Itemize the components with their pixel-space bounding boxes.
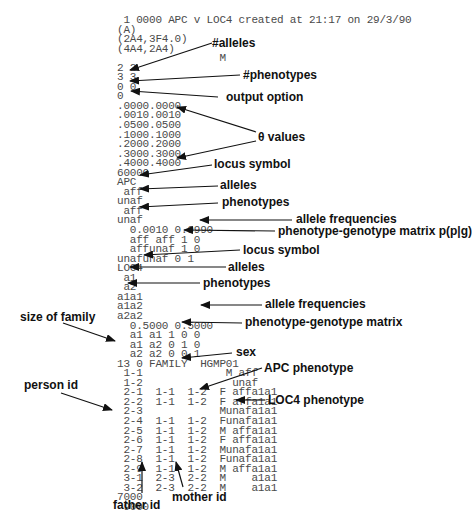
arrow-locus-symbol-2 (144, 250, 240, 255)
arrow-apc-phenotype (200, 368, 262, 389)
arrow-alleles-1 (140, 186, 218, 189)
label-alleles-count: #alleles (212, 36, 255, 50)
label-phenotypes-2: phenotypes (203, 276, 270, 290)
label-allele-frequencies-2: allele frequencies (265, 297, 366, 311)
label-mother-id: mother id (172, 490, 227, 504)
arrow-pg-matrix-2 (182, 322, 242, 323)
arrow-sex (182, 353, 232, 358)
label-sex: sex (236, 345, 256, 359)
label-size-of-family: size of family (20, 310, 95, 324)
arrow-alleles-count (130, 43, 212, 70)
label-output-option: output option (226, 90, 303, 104)
label-alleles-2: alleles (228, 260, 265, 274)
arrow-phenotypes-1 (140, 203, 218, 207)
label-loc4-phenotype: LOC4 phenotype (268, 393, 364, 407)
arrow-phenotypes-count (130, 75, 240, 81)
arrow-output-option (131, 91, 218, 97)
label-person-id: person id (24, 378, 78, 392)
label-apc-phenotype: APC phenotype (264, 361, 353, 375)
label-locus-symbol-1: locus symbol (214, 157, 291, 171)
arrow-person-id (61, 393, 112, 410)
arrow-theta-bottom (177, 141, 256, 158)
arrow-theta-top (177, 107, 256, 132)
label-father-id: father id (113, 498, 160, 512)
arrow-locus-symbol-1 (140, 165, 212, 175)
label-theta-values: θ values (258, 130, 305, 144)
label-alleles-1: alleles (220, 178, 257, 192)
label-phenotypes-count: #phenotypes (243, 68, 317, 82)
arrow-size-of-family (63, 323, 115, 341)
arrow-pg-matrix-1 (184, 230, 275, 231)
label-locus-symbol-2: locus symbol (243, 243, 320, 257)
label-pg-matrix-2: phenotype-genotype matrix (245, 315, 402, 329)
arrow-mother-id (176, 462, 183, 487)
label-phenotypes-1: phenotypes (222, 195, 289, 209)
label-pg-matrix-1: phenotype-genotype matrix p(p|g) (278, 224, 472, 238)
